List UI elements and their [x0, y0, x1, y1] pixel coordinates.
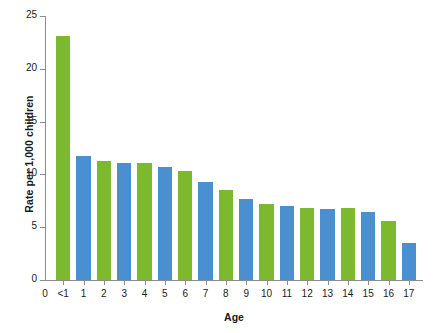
x-tick-label: 17 — [396, 288, 422, 299]
x-tick-15 — [368, 280, 369, 285]
x-tick-13 — [328, 280, 329, 285]
x-tick-12 — [307, 280, 308, 285]
x-tick-14 — [348, 280, 349, 285]
bar-age-8[interactable] — [219, 190, 234, 280]
x-tick-2 — [104, 280, 105, 285]
bar-age-2[interactable] — [97, 161, 112, 280]
bar-age-15[interactable] — [361, 212, 376, 280]
bar-age-6[interactable] — [178, 171, 193, 280]
bar-age-12[interactable] — [300, 208, 315, 280]
y-tick-20: 20 — [40, 69, 45, 70]
y-axis-title: Rate per 1,000 children — [23, 69, 35, 239]
bar-age-4[interactable] — [137, 163, 152, 280]
x-tick-17 — [409, 280, 410, 285]
bar-age-10[interactable] — [259, 204, 274, 280]
bar-age-17[interactable] — [402, 243, 417, 280]
y-tick-25: 25 — [40, 16, 45, 17]
y-tick-label: 25 — [26, 9, 37, 20]
bar-age-14[interactable] — [341, 208, 356, 280]
x-tick-5 — [165, 280, 166, 285]
x-tick-lt1 — [63, 280, 64, 285]
x-tick-16 — [389, 280, 390, 285]
y-tick-0: 0 — [40, 280, 45, 281]
y-tick-label: 20 — [26, 62, 37, 73]
x-axis-line — [45, 280, 423, 281]
bar-age-3[interactable] — [117, 163, 132, 280]
x-tick-6 — [185, 280, 186, 285]
x-axis-title: Age — [45, 311, 423, 323]
y-tick-15: 15 — [40, 122, 45, 123]
x-tick-8 — [226, 280, 227, 285]
x-tick-4 — [145, 280, 146, 285]
bar-age-1[interactable] — [76, 156, 91, 280]
bar-age-lt1[interactable] — [56, 36, 71, 280]
bar-age-16[interactable] — [381, 221, 396, 280]
bar-age-11[interactable] — [280, 206, 295, 280]
plot-area: 0510152025 0<11234567891011121314151617 — [45, 16, 423, 280]
y-axis-line — [45, 16, 46, 280]
y-tick-10: 10 — [40, 174, 45, 175]
y-tick-label: 0 — [31, 273, 37, 284]
y-tick-label: 5 — [31, 220, 37, 231]
y-tick-label: 15 — [26, 115, 37, 126]
y-tick-label: 10 — [26, 167, 37, 178]
bar-age-5[interactable] — [158, 167, 173, 280]
x-tick-3 — [124, 280, 125, 285]
x-tick-10 — [267, 280, 268, 285]
x-tick-1 — [84, 280, 85, 285]
y-tick-5: 5 — [40, 227, 45, 228]
x-tick-11 — [287, 280, 288, 285]
bar-age-13[interactable] — [320, 209, 335, 280]
bar-chart: Rate per 1,000 children 0510152025 0<112… — [0, 0, 433, 333]
bar-age-7[interactable] — [198, 182, 213, 280]
bar-age-9[interactable] — [239, 199, 254, 280]
x-tick-7 — [206, 280, 207, 285]
x-tick-9 — [246, 280, 247, 285]
